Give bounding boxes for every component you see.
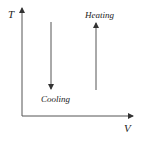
tv-diagram: T V Heating Cooling	[0, 0, 141, 142]
y-axis-label: T	[8, 8, 15, 20]
cooling-label: Cooling	[41, 94, 71, 104]
x-axis-label: V	[124, 122, 132, 134]
heating-label: Heating	[84, 10, 114, 20]
